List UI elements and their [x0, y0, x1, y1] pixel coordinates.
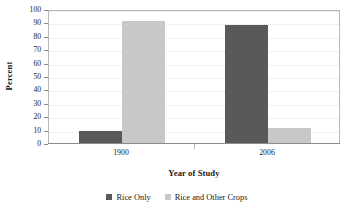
legend-swatch-icon	[165, 194, 171, 200]
y-axis-tick-label: 90	[17, 20, 41, 28]
y-axis-title: Percent	[0, 0, 18, 152]
x-axis-tick-labels: 19002006	[48, 148, 340, 162]
legend-swatch-icon	[106, 194, 112, 200]
legend-label: Rice and Other Crops	[175, 193, 248, 202]
chart-legend: Rice OnlyRice and Other Crops	[0, 189, 354, 205]
x-axis-tick-label: 2006	[259, 148, 275, 158]
y-axis-tick-label: 10	[17, 127, 41, 135]
bar	[268, 128, 311, 143]
bar-group	[79, 11, 164, 143]
y-axis-tick-label: 100	[17, 6, 41, 14]
x-axis-tick-label: 1900	[113, 148, 129, 158]
y-axis-tick-label: 30	[17, 100, 41, 108]
y-axis-title-label: Percent	[4, 62, 14, 91]
y-axis-tick-label: 80	[17, 33, 41, 41]
y-axis-tick-labels: 0102030405060708090100	[18, 10, 44, 144]
bar-group	[225, 11, 310, 143]
plot-area	[48, 10, 340, 144]
legend-item[interactable]: Rice and Other Crops	[165, 193, 248, 202]
y-axis-tick-label: 50	[17, 73, 41, 81]
y-axis-tick-label: 0	[17, 140, 41, 148]
legend-label: Rice Only	[116, 193, 150, 202]
legend-item[interactable]: Rice Only	[106, 193, 150, 202]
bars-layer	[49, 11, 339, 143]
bar	[225, 25, 268, 143]
bar	[122, 21, 165, 143]
x-axis-title: Year of Study	[48, 168, 340, 178]
bar	[79, 131, 122, 143]
y-axis-tick-label: 40	[17, 87, 41, 95]
bar-chart-figure: Percent 0102030405060708090100 19002006 …	[0, 0, 354, 207]
y-axis-tick-label: 20	[17, 113, 41, 121]
y-axis-tick-label: 60	[17, 60, 41, 68]
y-axis-tick-label: 70	[17, 46, 41, 54]
